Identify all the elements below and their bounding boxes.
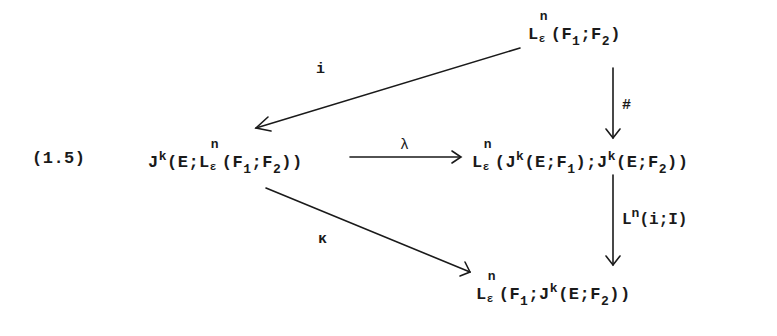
sup-sub: nε — [539, 22, 551, 39]
label-Ln-i-I: Ln(i;I) — [622, 212, 687, 228]
sup-sub: nε — [487, 282, 499, 299]
arrow-kappa — [266, 188, 470, 276]
node-middle-right: Lnε(Jk(E;F1);Jk(E;F2)) — [472, 150, 689, 171]
node-bottom-right: Lnε(F1;Jk(E;F2)) — [476, 282, 631, 303]
node-base: L — [528, 25, 539, 44]
label-lambda: λ — [400, 138, 409, 153]
label-i: i — [316, 62, 325, 77]
sup-sub: nε — [483, 150, 495, 167]
equation-number: (1.5) — [32, 150, 86, 167]
arrow-i — [256, 48, 520, 131]
label-sharp: # — [622, 98, 631, 113]
node-left: Jk(E;Lnε(F1;F2)) — [148, 150, 303, 171]
label-kappa: κ — [318, 232, 327, 247]
sup-sub: nε — [210, 150, 222, 167]
node-top-right: Lnε(F1;F2) — [528, 22, 621, 43]
arrow-Ln-i-I — [606, 175, 620, 265]
arrow-sharp — [606, 68, 620, 138]
